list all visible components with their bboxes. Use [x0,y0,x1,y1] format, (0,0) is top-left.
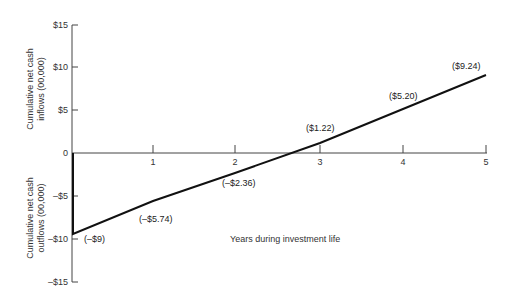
svg-text:(–$2.36): (–$2.36) [222,178,256,188]
x-ticks [153,145,486,153]
svg-text:2: 2 [232,157,237,167]
svg-text:inflows (00,000): inflows (00,000) [36,57,46,121]
svg-text:–$5: –$5 [53,191,68,201]
svg-text:$10: $10 [53,62,68,72]
y-axis-title-bottom: Cumulative net cash outflows (00,000) [25,177,46,259]
svg-text:($1.22): ($1.22) [306,123,335,133]
svg-text:1: 1 [150,157,155,167]
svg-text:–$10: –$10 [48,234,68,244]
x-tick-labels: 1 2 3 4 5 [150,157,488,167]
svg-text:($9.24): ($9.24) [452,61,481,71]
svg-text:Cumulative net cash: Cumulative net cash [25,48,35,130]
svg-text:–$15: –$15 [48,277,68,287]
svg-text:$15: $15 [53,20,68,30]
y-axis-title-top: Cumulative net cash inflows (00,000) [25,48,46,130]
svg-text:Cumulative net cash: Cumulative net cash [25,177,35,259]
cumulative-cash-flow-chart: $15 $10 $5 0 –$5 –$10 –$15 1 2 3 4 5 (–$… [0,0,516,304]
svg-text:4: 4 [400,157,405,167]
svg-text:5: 5 [483,157,488,167]
y-tick-labels: $15 $10 $5 0 –$5 –$10 –$15 [48,20,68,287]
svg-text:$5: $5 [58,105,68,115]
svg-text:(–$5.74): (–$5.74) [139,214,173,224]
x-axis-title: Years during investment life [230,234,340,244]
cash-flow-line [73,75,486,234]
svg-text:outflows (00,000): outflows (00,000) [36,183,46,252]
svg-text:(–$9): (–$9) [84,234,105,244]
svg-text:($5.20): ($5.20) [389,91,418,101]
svg-text:0: 0 [63,148,68,158]
svg-text:3: 3 [317,157,322,167]
